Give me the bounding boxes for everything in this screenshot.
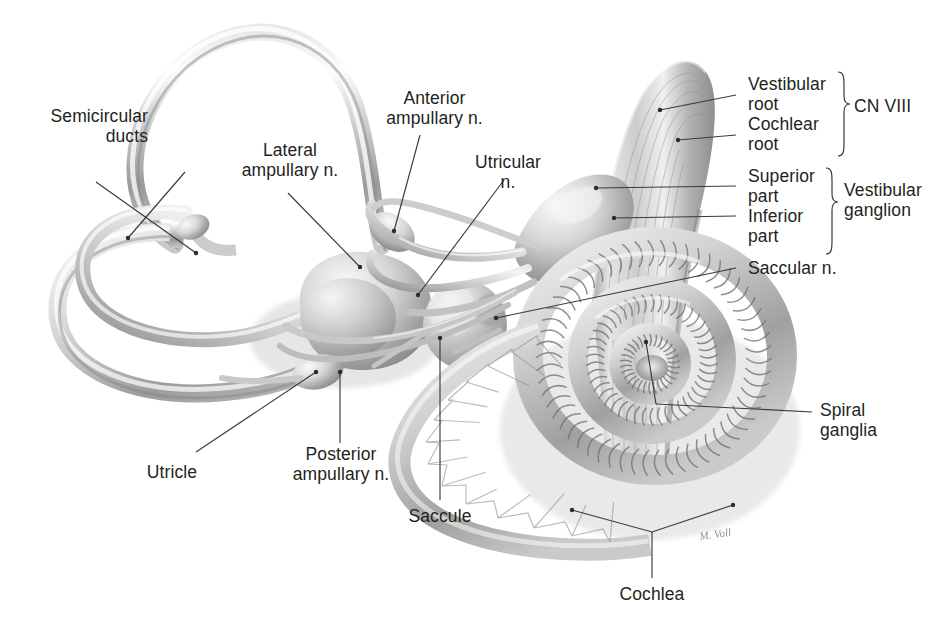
label-cochlea: Cochlea	[592, 584, 712, 604]
label-utricular-n: Utricular n.	[452, 152, 564, 192]
label-saccular-n: Saccular n.	[748, 258, 908, 278]
label-cochlear-root: Cochlear root	[748, 114, 858, 154]
label-superior-part: Superior part	[748, 166, 844, 206]
label-vestibular-root: Vestibular root	[748, 74, 858, 114]
figure-canvas: M. Voll	[0, 0, 929, 620]
label-spiral-ganglia: Spiral ganglia	[820, 400, 920, 440]
label-saccule: Saccule	[380, 506, 500, 526]
label-inferior-part: Inferior part	[748, 206, 844, 246]
label-posterior-ampullary-n: Posterior ampullary n.	[248, 444, 434, 484]
label-lateral-ampullary-n: Lateral ampullary n.	[200, 140, 380, 180]
label-semicircular-ducts: Semicircular ducts	[6, 106, 148, 146]
label-vestibular-ganglion: Vestibular ganglion	[844, 180, 929, 220]
label-anterior-ampullary-n: Anterior ampullary n.	[352, 88, 517, 128]
label-utricle: Utricle	[112, 462, 232, 482]
label-cn-viii: CN VIII	[854, 96, 929, 116]
